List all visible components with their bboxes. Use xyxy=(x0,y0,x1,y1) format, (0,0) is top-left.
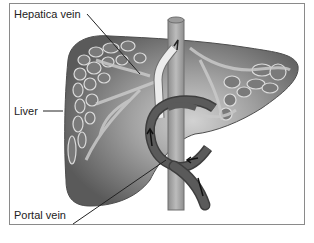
label-liver: Liver xyxy=(14,105,38,117)
label-hepatic-vein: Hepatica vein xyxy=(14,8,81,20)
label-portal-vein: Portal vein xyxy=(14,209,66,221)
liver-illustration xyxy=(0,0,314,243)
